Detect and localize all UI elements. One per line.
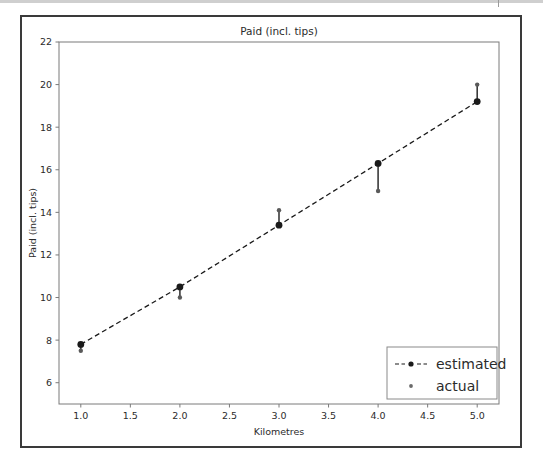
estimated-point bbox=[177, 283, 184, 290]
x-axis-ticks: 1.01.52.02.53.03.54.04.55.0 bbox=[73, 404, 485, 421]
estimated-point bbox=[474, 98, 481, 105]
actual-point bbox=[79, 349, 83, 353]
chart-title: Paid (incl. tips) bbox=[240, 25, 318, 37]
x-tick-label: 3.0 bbox=[271, 410, 286, 421]
actual-point bbox=[376, 189, 380, 193]
x-tick-label: 2.5 bbox=[222, 410, 237, 421]
x-tick-label: 4.5 bbox=[420, 410, 435, 421]
y-tick-label: 22 bbox=[40, 36, 52, 47]
y-tick-label: 18 bbox=[40, 122, 52, 133]
x-axis-label: Kilometres bbox=[254, 426, 305, 437]
y-axis-ticks: 6810121416182022 bbox=[40, 36, 59, 388]
actual-point bbox=[277, 208, 281, 212]
actual-point bbox=[178, 295, 182, 299]
x-tick-label: 1.5 bbox=[123, 410, 138, 421]
x-tick-label: 4.0 bbox=[371, 410, 386, 421]
estimated-point bbox=[375, 160, 382, 167]
x-tick-label: 3.5 bbox=[321, 410, 336, 421]
chart-legend[interactable]: estimated actual bbox=[387, 347, 507, 399]
y-tick-label: 14 bbox=[40, 207, 52, 218]
x-tick-label: 2.0 bbox=[172, 410, 187, 421]
y-tick-label: 6 bbox=[46, 377, 52, 388]
figure-frame: Paid (incl. tips) Kilometres Paid (incl.… bbox=[20, 15, 522, 448]
x-tick-label: 5.0 bbox=[470, 410, 485, 421]
y-tick-label: 12 bbox=[40, 249, 52, 260]
y-tick-label: 16 bbox=[40, 164, 52, 175]
legend-dot-icon bbox=[409, 384, 413, 388]
y-tick-label: 10 bbox=[40, 292, 52, 303]
legend-label-estimated: estimated bbox=[436, 356, 507, 372]
x-tick-label: 1.0 bbox=[73, 410, 88, 421]
y-tick-label: 8 bbox=[46, 335, 52, 346]
estimated-point bbox=[77, 341, 84, 348]
actual-point bbox=[475, 82, 479, 86]
legend-label-actual: actual bbox=[436, 378, 479, 394]
chart-canvas: Paid (incl. tips) Kilometres Paid (incl.… bbox=[22, 17, 520, 446]
estimated-point bbox=[276, 222, 283, 229]
top-edge-artifact bbox=[0, 0, 543, 3]
y-axis-label: Paid (incl. tips) bbox=[27, 188, 38, 258]
y-tick-label: 20 bbox=[40, 79, 52, 90]
legend-marker-icon bbox=[408, 361, 413, 366]
top-edge-tick-artifact bbox=[498, 0, 499, 7]
